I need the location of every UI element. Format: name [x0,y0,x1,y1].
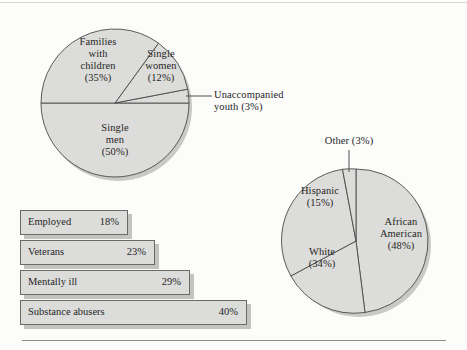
bar-box[interactable]: Veterans 23% [20,240,155,265]
bar-label: Substance abusers [28,306,105,317]
bar-chart-characteristics: Employed 18% Veterans 23% Mentally ill 2… [20,210,270,328]
pie-left-label-single-women: Single women (12%) [135,48,187,84]
bar-box[interactable]: Employed 18% [20,210,128,235]
pie-chart-race: Other (3%) Hispanic (15%) White (34%) Af… [270,138,467,338]
pie-chart-household-type: Families with children (35%) Single wome… [0,0,250,195]
bar-value: 40% [219,306,238,317]
bar-box[interactable]: Substance abusers 40% [20,300,247,325]
bar-box[interactable]: Mentally ill 29% [20,270,190,295]
figure-page: Families with children (35%) Single wome… [0,0,467,350]
pie-left-svg [0,0,250,195]
bar-value: 23% [127,246,146,257]
pie-right-label-white: White (34%) [296,246,348,270]
pie-left-label-families-with-children: Families with children (35%) [62,36,134,84]
page-bottom-rule [22,340,446,341]
bar-row-substance-abusers[interactable]: Substance abusers 40% [20,300,251,327]
pie-right-label-african-american: African American (48%) [368,216,434,252]
bar-row-veterans[interactable]: Veterans 23% [20,240,159,267]
bar-label: Employed [28,216,71,227]
bar-row-mentally-ill[interactable]: Mentally ill 29% [20,270,194,297]
pie-right-label-other: Other (3%) [312,135,386,147]
bar-label: Veterans [28,246,64,257]
bar-row-employed[interactable]: Employed 18% [20,210,132,237]
pie-right-label-hispanic: Hispanic (15%) [290,185,350,209]
bar-value: 29% [162,276,181,287]
bar-value: 18% [100,216,119,227]
pie-left-label-single-men: Single men (50%) [88,122,142,158]
bar-label: Mentally ill [28,276,77,287]
pie-left-label-unaccompanied-youth: Unaccompanied youth (3%) [214,89,300,113]
